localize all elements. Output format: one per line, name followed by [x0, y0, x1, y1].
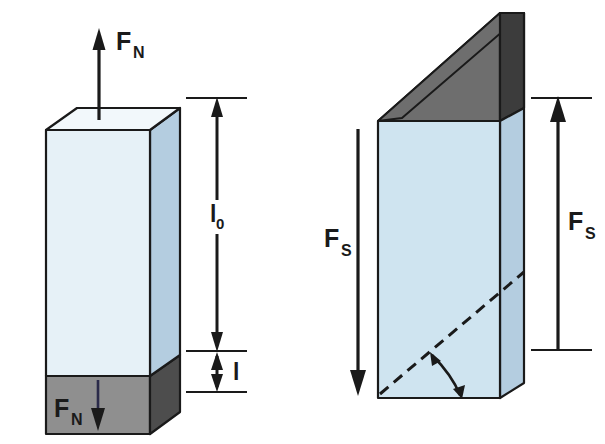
- block-front-face: [46, 130, 150, 376]
- dimension-arrow-l: [211, 352, 223, 392]
- force-label-shear-left-subscript: S: [341, 242, 352, 259]
- force-label-normal-top-subscript: N: [133, 44, 145, 61]
- shear-force-diagram: F S F S: [324, 13, 596, 399]
- block-side-face: [150, 108, 180, 376]
- force-arrow-normal-up: [93, 28, 106, 120]
- force-label-normal-bottom-subscript: N: [71, 411, 83, 428]
- dimension-label-l: l: [233, 359, 239, 385]
- force-arrow-shear-up: [550, 96, 566, 350]
- shear-block-side-face: [500, 108, 524, 398]
- force-label-normal-top: F: [116, 27, 131, 55]
- force-label-shear-right-subscript: S: [585, 225, 596, 242]
- force-label-shear-left: F: [324, 224, 339, 252]
- force-label-normal-bottom: F: [54, 394, 69, 422]
- diagram-canvas: F N F N l 0: [0, 0, 605, 444]
- slant-side-face-overlay: [500, 13, 524, 121]
- normal-force-diagram: F N F N l 0: [46, 27, 247, 434]
- force-label-shear-right: F: [568, 207, 583, 235]
- shear-block-front-face: [378, 121, 500, 398]
- physics-figure: F N F N l 0: [0, 0, 605, 444]
- force-arrow-shear-down: [350, 129, 366, 396]
- dimension-label-l0-subscript: 0: [216, 215, 224, 232]
